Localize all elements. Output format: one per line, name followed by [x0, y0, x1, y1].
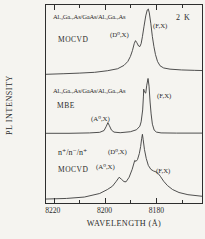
panel2-sample-label: Al.₃Ga.₇As/GaAs/Al.₃Ga.₇As — [53, 87, 126, 94]
x-axis-tick-8170 — [182, 200, 183, 203]
x-axis-tick-8190 — [130, 200, 131, 203]
x-tick-label-8200: 8200 — [91, 206, 119, 215]
y-axis-title: PL INTENSITY — [5, 45, 17, 165]
x-tick-label-8220: 8220 — [39, 206, 67, 215]
panel3-fx-peak-label: (F,X) — [156, 167, 170, 174]
x-axis-tick-8220 — [54, 198, 55, 203]
pl-spectra-figure: PL INTENSITY Al.₃Ga.₇As/GaAs/Al.₃Ga.₇As … — [0, 0, 205, 239]
panel2-fx-peak-label: (F,X) — [157, 92, 171, 99]
x-axis-title: WAVELENGTH (Å) — [45, 219, 203, 228]
x-axis-tick-8210 — [79, 5, 80, 8]
panel3-d0x-peak-label: (D⁰,X) — [108, 148, 127, 155]
x-axis-tick-8220 — [54, 5, 55, 10]
x-tick-label-8180: 8180 — [142, 206, 170, 215]
x-axis-tick-8180 — [156, 198, 157, 203]
panel2-a0x-peak-label: (A⁰,X) — [91, 115, 110, 122]
panel1-fx-peak-label: (F,X) — [153, 22, 167, 29]
x-axis-tick-8200 — [105, 5, 106, 10]
x-axis-tick-8180 — [156, 5, 157, 10]
x-axis-tick-8190 — [130, 5, 131, 8]
panel1-sample-label: Al.₃Ga.₇As/GaAs/Al.₃Ga.₇As — [53, 13, 126, 20]
panel3-sample-label: n⁺/n⁻/n⁺ — [58, 149, 87, 158]
panel3-method-label: MOCVD — [58, 166, 88, 174]
temperature-label: 2 K — [176, 14, 191, 23]
panel1-method-label: MOCVD — [58, 36, 88, 44]
plot-area: Al.₃Ga.₇As/GaAs/Al.₃Ga.₇As MOCVD (D⁰,X) … — [45, 4, 203, 204]
panel2-method-label: MBE — [57, 102, 75, 110]
x-axis-tick-8210 — [79, 200, 80, 203]
x-axis-tick-8170 — [182, 5, 183, 8]
panel3-a0x-peak-label: (A⁰,X) — [96, 163, 115, 170]
panel1-d0x-peak-label: (D⁰,X) — [110, 31, 129, 38]
x-axis-tick-8200 — [105, 198, 106, 203]
